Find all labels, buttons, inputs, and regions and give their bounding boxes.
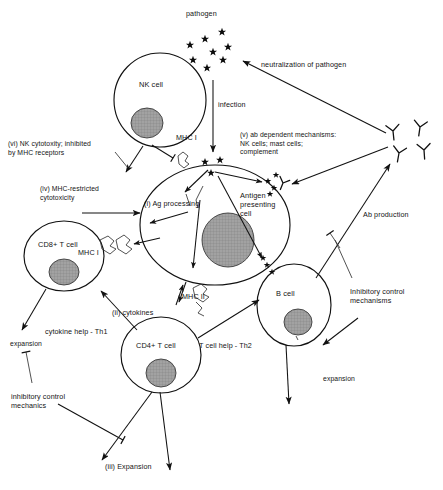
nucleus-b bbox=[284, 309, 312, 335]
label-inhibitory-left: inhibitory control mechanics bbox=[11, 392, 65, 410]
label-step-i: (i) Ag processing bbox=[144, 199, 199, 208]
label-nk-cell: NK cell bbox=[139, 80, 163, 89]
nucleus-nk bbox=[131, 108, 163, 138]
label-inhibitory-right: Inhibitory control mechanisms bbox=[350, 287, 405, 305]
nucleus-apc bbox=[202, 213, 254, 267]
label-expansion-right: expansion bbox=[323, 375, 355, 384]
label-mhc-i-top: MHC I bbox=[176, 133, 197, 142]
label-cd8: CD8+ T cell bbox=[38, 240, 78, 249]
label-cd4: CD4+ T cell bbox=[136, 341, 176, 350]
label-expansion-left: expansion bbox=[10, 340, 42, 349]
label-ab-production: Ab production bbox=[363, 210, 409, 219]
cell-cd4 bbox=[121, 317, 201, 393]
note-vi: (vi) NK cytotoxity; inhibited by MHC rec… bbox=[8, 140, 91, 157]
cell-apc bbox=[140, 165, 290, 285]
cell-b bbox=[257, 264, 331, 346]
label-neutralization: neutralization of pathogen bbox=[261, 60, 346, 69]
label-mhc-ii: MHC II bbox=[182, 292, 205, 301]
label-infection: infection bbox=[218, 100, 246, 109]
label-step-iii: (iii) Expansion bbox=[105, 462, 152, 471]
nucleus-cd8 bbox=[49, 259, 79, 285]
label-apc: Antigen presenting cell bbox=[240, 191, 276, 219]
label-mhc-i-left: MHC I bbox=[78, 248, 99, 257]
note-v: (v) ab dependent mechanisms: NK cells; m… bbox=[240, 131, 336, 157]
label-t-cell-help: T cell help - Th2 bbox=[199, 341, 252, 350]
label-pathogen: pathogen bbox=[186, 9, 217, 18]
nucleus-cd4 bbox=[146, 359, 176, 387]
label-cytokine-help: cytokine help - Th1 bbox=[45, 327, 108, 336]
label-step-ii: (ii) cytokines bbox=[112, 308, 153, 317]
label-b-cell: B cell bbox=[276, 289, 295, 298]
note-iv: (iv) MHC-restricted cytotoxicity bbox=[40, 185, 99, 202]
